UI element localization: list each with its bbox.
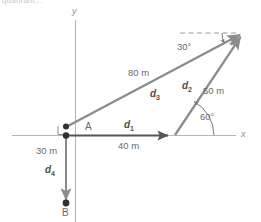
magnitude-label-d1: 40 m bbox=[118, 141, 139, 151]
point-B bbox=[63, 200, 70, 207]
vector-label-d4-sub: 4 bbox=[51, 170, 55, 177]
figure-canvas: quadrant... bbox=[0, 0, 261, 222]
angle-arc-30 bbox=[222, 33, 225, 44]
magnitude-label-d2: 50 m bbox=[203, 86, 224, 96]
point-d3-tail bbox=[63, 124, 69, 130]
vector-label-d1-sub: 1 bbox=[130, 125, 134, 132]
y-axis-label: y bbox=[72, 7, 77, 16]
magnitude-label-d4: 30 m bbox=[36, 146, 57, 156]
vector-label-d1: d1 bbox=[124, 120, 134, 132]
vector-label-d4: d4 bbox=[45, 165, 55, 177]
vector-label-d2: d2 bbox=[182, 81, 192, 93]
vector-label-d3-sub: 3 bbox=[156, 94, 160, 101]
vector-label-d3: d3 bbox=[150, 89, 160, 101]
point-A bbox=[63, 132, 69, 138]
point-label-A: A bbox=[85, 122, 92, 132]
angle-label-30: 30° bbox=[177, 42, 191, 52]
point-label-B: B bbox=[62, 208, 69, 218]
vector-diagram-svg bbox=[0, 0, 261, 222]
angle-label-60: 60° bbox=[200, 112, 214, 122]
x-axis-label: x bbox=[241, 130, 246, 139]
magnitude-label-d3: 80 m bbox=[128, 68, 149, 78]
vector-label-d2-sub: 2 bbox=[188, 86, 192, 93]
